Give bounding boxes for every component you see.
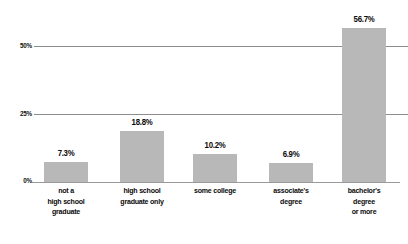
bar-bachelors-degree-or-more — [342, 28, 386, 182]
bar-chart: 50% 25% 0% 7.3% 18.8% 10.2% 6.9% 56.7% n… — [0, 0, 408, 244]
ytick-label-50: 50% — [9, 42, 32, 49]
value-label-high-school-graduate-only: 18.8% — [114, 117, 169, 127]
category-line: graduate only — [102, 197, 182, 208]
value-label-not-a-high-school-graduate: 7.3% — [38, 148, 93, 158]
category-line: not a — [26, 186, 106, 197]
ytick-label-25: 25% — [9, 110, 32, 117]
value-label-some-college: 10.2% — [187, 140, 242, 150]
ytick-label-0: 0% — [9, 177, 32, 184]
plot-area: 50% 25% 0% 7.3% 18.8% 10.2% 6.9% 56.7% — [0, 0, 408, 182]
gridline-baseline-0 — [32, 182, 400, 183]
bar-associates-degree — [269, 163, 313, 182]
value-label-associates-degree: 6.9% — [263, 149, 318, 159]
category-label-bachelors-degree-or-more: bachelor's degree or more — [324, 186, 404, 218]
bar-some-college — [193, 154, 237, 182]
category-line: graduate — [26, 207, 106, 218]
category-line: degree — [324, 197, 404, 208]
category-line: or more — [324, 207, 404, 218]
category-line: some college — [175, 186, 255, 197]
category-label-some-college: some college — [175, 186, 255, 197]
category-label-high-school-graduate-only: high school graduate only — [102, 186, 182, 207]
bar-not-a-high-school-graduate — [44, 162, 88, 182]
category-line: associate's — [251, 186, 331, 197]
category-line: bachelor's — [324, 186, 404, 197]
bar-high-school-graduate-only — [120, 131, 164, 182]
value-label-bachelors-degree-or-more: 56.7% — [336, 14, 391, 24]
category-label-associates-degree: associate's degree — [251, 186, 331, 207]
category-line: high school — [102, 186, 182, 197]
category-label-not-a-high-school-graduate: not a high school graduate — [26, 186, 106, 218]
category-line: degree — [251, 197, 331, 208]
category-line: high school — [26, 197, 106, 208]
